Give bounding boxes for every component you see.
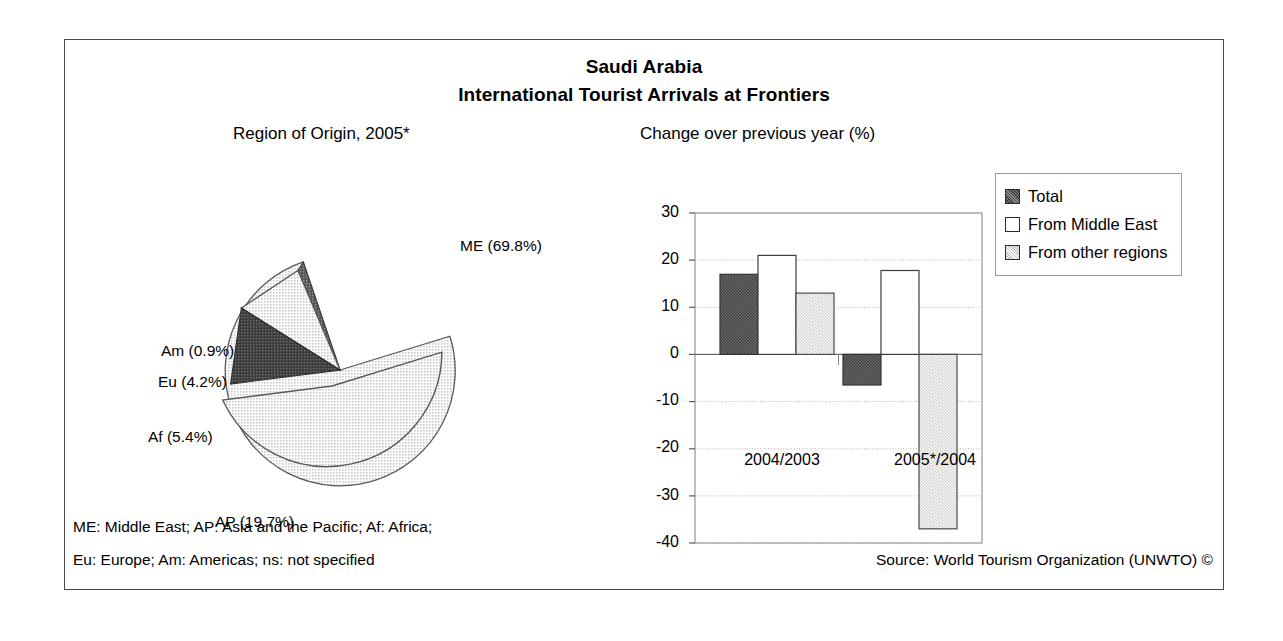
y-tick-minus40: -40 — [633, 533, 679, 551]
x-category-label-0: 2004/2003 — [707, 451, 857, 469]
y-tick-minus30: -30 — [633, 486, 679, 504]
figure-frame: Saudi Arabia International Tourist Arriv… — [64, 39, 1224, 590]
page-subtitle: International Tourist Arrivals at Fronti… — [65, 84, 1223, 106]
legend-item-other-regions: From other regions — [1005, 243, 1167, 262]
x-category-label-1: 2005*/2004 — [860, 451, 1010, 469]
legend-label-other-regions: From other regions — [1028, 243, 1167, 262]
pie-chart-title: Region of Origin, 2005* — [233, 124, 410, 144]
y-tick-30: 30 — [633, 203, 679, 221]
legend-label-middle-east: From Middle East — [1028, 215, 1157, 234]
bar-middle-east-2004 — [758, 255, 796, 354]
y-axis-ticks — [689, 213, 695, 543]
legend-label-total: Total — [1028, 187, 1063, 206]
legend-swatch-middle-east — [1005, 217, 1020, 232]
y-tick-20: 20 — [633, 250, 679, 268]
chart-legend: Total From Middle East From other region… — [995, 173, 1182, 276]
source-note: Source: World Tourism Organization (UNWT… — [876, 551, 1213, 569]
legend-swatch-other-regions — [1005, 245, 1020, 260]
bar-other-regions-2004 — [796, 293, 834, 354]
pie-chart-svg — [75, 145, 635, 535]
bar-total-2004 — [720, 274, 758, 354]
legend-item-middle-east: From Middle East — [1005, 215, 1167, 234]
pie-label-am: Am (0.9%) — [161, 342, 234, 360]
bar-total-2005 — [843, 354, 881, 385]
y-tick-0: 0 — [633, 344, 679, 362]
legend-item-total: Total — [1005, 187, 1167, 206]
bar-chart-title: Change over previous year (%) — [640, 124, 875, 144]
pie-label-me: ME (69.8%) — [460, 237, 542, 255]
page-title: Saudi Arabia — [65, 56, 1223, 78]
footnote-abbreviations-line1: ME: Middle East; AP: Asia and the Pacifi… — [73, 518, 432, 536]
footnote-abbreviations-line2: Eu: Europe; Am: Americas; ns: not specif… — [73, 551, 375, 569]
bar-middle-east-2005 — [881, 271, 919, 355]
legend-swatch-total — [1005, 189, 1020, 204]
y-tick-10: 10 — [633, 297, 679, 315]
bar-other-regions-2005 — [919, 354, 957, 528]
pie-label-af: Af (5.4%) — [148, 428, 213, 446]
bar-chart-panel: 30 20 10 0 -10 -20 -30 -40 2004/2003 200… — [645, 145, 1215, 545]
y-tick-minus20: -20 — [633, 438, 679, 456]
y-tick-minus10: -10 — [633, 391, 679, 409]
pie-label-eu: Eu (4.2%) — [158, 373, 227, 391]
pie-chart-panel: ME (69.8%) AP (19.7%) Af (5.4%) Eu (4.2%… — [75, 145, 635, 535]
